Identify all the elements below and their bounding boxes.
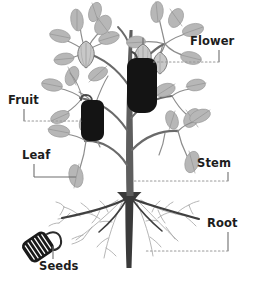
label-fruit: Fruit	[8, 95, 39, 107]
fine-roots	[49, 200, 199, 258]
label-flower: Flower	[190, 36, 234, 48]
label-seeds: Seeds	[39, 261, 78, 273]
root-system	[49, 192, 199, 268]
flower-bud-left	[78, 41, 94, 68]
plant-anatomy-diagram: Flower Fruit Leaf Stem Root Seeds	[0, 0, 259, 282]
label-leaf: Leaf	[22, 150, 50, 162]
label-stem: Stem	[197, 158, 231, 170]
main-stem	[126, 30, 134, 196]
taproot	[125, 195, 133, 268]
fruit-pod-large	[127, 52, 157, 113]
label-root: Root	[207, 218, 238, 230]
fruit-pod-small	[81, 95, 104, 141]
leader-stem	[134, 172, 228, 181]
leader-root	[146, 232, 228, 251]
fruits	[81, 52, 157, 141]
